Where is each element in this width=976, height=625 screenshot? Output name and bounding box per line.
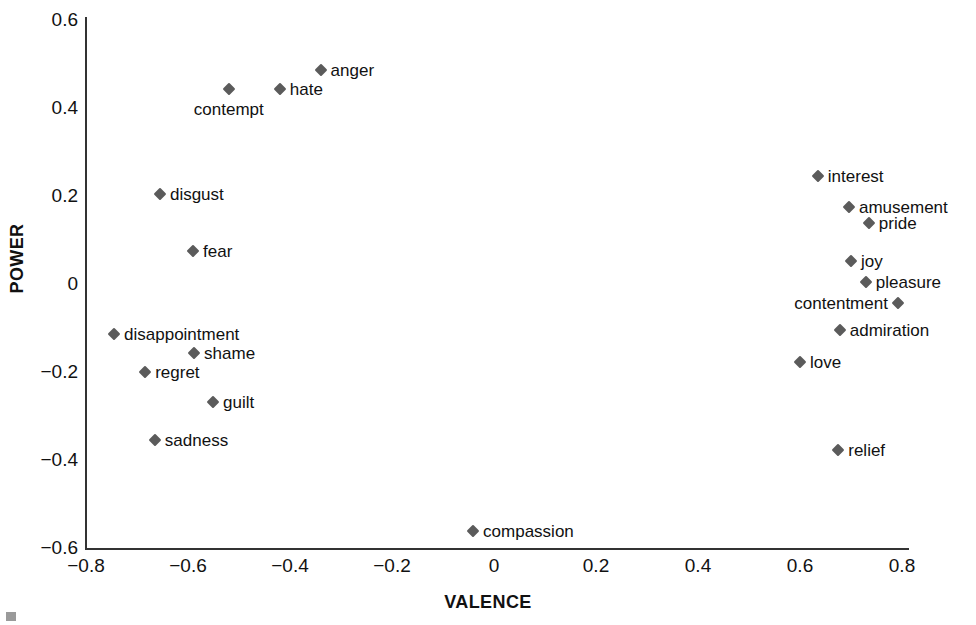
data-point-marker bbox=[222, 83, 235, 96]
data-point-label: interest bbox=[828, 168, 884, 185]
x-tick-label: −0.6 bbox=[169, 556, 207, 575]
data-point-label: contentment bbox=[794, 294, 888, 311]
x-tick-label: 0.4 bbox=[685, 556, 711, 575]
data-point-marker bbox=[859, 276, 872, 289]
y-tick-label: 0.2 bbox=[52, 186, 78, 205]
data-point-marker bbox=[139, 366, 152, 379]
data-point-marker bbox=[794, 356, 807, 369]
y-tick-label: 0.4 bbox=[52, 98, 78, 117]
x-tick-label: 0.2 bbox=[583, 556, 609, 575]
data-point-label: compassion bbox=[483, 523, 574, 540]
data-point-label: love bbox=[810, 354, 841, 371]
x-tick-label: −0.4 bbox=[271, 556, 309, 575]
x-axis-title: VALENCE bbox=[0, 592, 976, 613]
data-point-label: anger bbox=[331, 62, 374, 79]
y-tick-label: 0 bbox=[67, 274, 78, 293]
data-point-label: disappointment bbox=[124, 326, 239, 343]
data-point-marker bbox=[314, 64, 327, 77]
data-point-marker bbox=[148, 434, 161, 447]
data-point-marker bbox=[187, 245, 200, 258]
data-point-label: guilt bbox=[223, 393, 254, 410]
x-tick-label: −0.2 bbox=[373, 556, 411, 575]
data-point-marker bbox=[207, 395, 220, 408]
data-point-marker bbox=[843, 201, 856, 214]
y-tick-label: −0.4 bbox=[40, 450, 78, 469]
data-point-label: relief bbox=[848, 441, 885, 458]
data-point-marker bbox=[188, 347, 201, 360]
x-tick-label: 0.8 bbox=[889, 556, 915, 575]
y-tick-label: 0.6 bbox=[52, 10, 78, 29]
data-point-label: fear bbox=[203, 242, 232, 259]
x-tick-label: 0 bbox=[489, 556, 500, 575]
x-axis-line bbox=[85, 548, 909, 550]
y-tick-label: −0.6 bbox=[40, 538, 78, 557]
data-point-label: joy bbox=[861, 253, 883, 270]
data-point-label: pleasure bbox=[876, 274, 941, 291]
y-tick-label: −0.2 bbox=[40, 362, 78, 381]
scan-artifact-mark bbox=[6, 612, 16, 621]
data-point-label: sadness bbox=[165, 432, 228, 449]
x-tick-label: −0.8 bbox=[67, 556, 105, 575]
data-point-label: hate bbox=[290, 80, 323, 97]
data-point-marker bbox=[108, 328, 121, 341]
data-point-label: contempt bbox=[194, 101, 264, 118]
y-axis-title: POWER bbox=[7, 214, 28, 304]
data-point-marker bbox=[154, 188, 167, 201]
data-point-marker bbox=[811, 170, 824, 183]
data-point-label: regret bbox=[155, 363, 199, 380]
data-point-marker bbox=[833, 324, 846, 337]
data-point-label: pride bbox=[879, 215, 917, 232]
data-point-marker bbox=[845, 255, 858, 268]
data-point-marker bbox=[862, 217, 875, 230]
data-point-marker bbox=[467, 525, 480, 538]
data-point-marker bbox=[832, 443, 845, 456]
data-point-label: disgust bbox=[170, 186, 224, 203]
data-point-marker bbox=[892, 296, 905, 309]
data-point-label: shame bbox=[204, 344, 255, 361]
y-axis-line bbox=[85, 17, 87, 550]
scatter-plot: 0.60.40.20−0.2−0.4−0.6 −0.8−0.6−0.4−0.20… bbox=[0, 0, 976, 625]
data-point-label: admiration bbox=[850, 322, 929, 339]
data-point-marker bbox=[273, 83, 286, 96]
x-tick-label: 0.6 bbox=[787, 556, 813, 575]
